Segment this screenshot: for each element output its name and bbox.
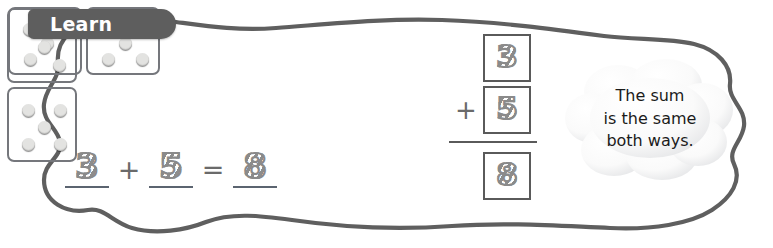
- equation-horizontal-addend2-slot[interactable]: 5: [147, 146, 195, 192]
- equation-vertical-addend1: 3: [496, 41, 518, 72]
- equation-vertical-addend2-box[interactable]: 5: [483, 86, 531, 134]
- equation-horizontal-sum: 8: [243, 149, 267, 183]
- pip: [38, 121, 51, 134]
- equation-vertical-sum-box[interactable]: 8: [483, 152, 531, 200]
- equation-vertical-sum: 8: [496, 159, 518, 190]
- callout-line-2: is the same: [604, 108, 697, 131]
- pip: [136, 53, 149, 66]
- equation-horizontal-addend2: 5: [159, 149, 183, 183]
- callout-text: The sum is the same both ways.: [562, 58, 738, 180]
- equation-horizontal-addend1: 3: [75, 149, 99, 183]
- equation-horizontal-sum-slot[interactable]: 8: [231, 146, 279, 192]
- pip: [54, 104, 67, 117]
- equation-horizontal-plus-operator: +: [111, 146, 147, 192]
- pip: [102, 53, 115, 66]
- equation-horizontal: 3 + 5 = 8: [63, 146, 313, 192]
- section-tab-label: Learn: [50, 13, 112, 35]
- equation-horizontal-addend1-slot[interactable]: 3: [63, 146, 111, 192]
- equation-horizontal-equals-operator: =: [195, 146, 231, 192]
- section-tab-learn: Learn: [28, 9, 176, 39]
- pip: [38, 41, 51, 54]
- equation-vertical: 3 + 5 8: [447, 24, 539, 222]
- callout-line-1: The sum: [616, 85, 685, 108]
- callout-line-3: both ways.: [606, 130, 693, 153]
- pip: [53, 59, 66, 72]
- equation-vertical-plus-operator: +: [453, 86, 479, 134]
- equation-vertical-sum-rule: [449, 141, 537, 143]
- pip: [22, 104, 35, 117]
- equation-vertical-addend2: 5: [496, 93, 518, 124]
- equation-vertical-addend1-box[interactable]: 3: [483, 34, 531, 82]
- callout-thought-cloud: The sum is the same both ways.: [562, 58, 738, 180]
- pip: [22, 138, 35, 151]
